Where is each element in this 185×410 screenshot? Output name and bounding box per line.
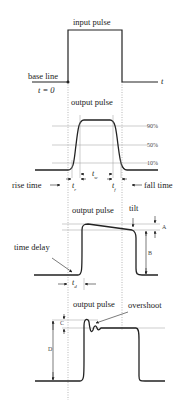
t-axis-label: t [161, 77, 163, 86]
output-pulse-label-2: output pulse [72, 206, 114, 215]
tw-label: tw [92, 170, 98, 180]
t0-label: t = 0 [38, 86, 55, 95]
level-90: 90% [147, 123, 158, 129]
tilt-label: tilt [129, 204, 138, 213]
tr-label: tr [72, 182, 76, 192]
overshoot-label: overshoot [128, 301, 162, 310]
tf-label: tf [112, 182, 116, 192]
level-10: 10% [147, 160, 158, 166]
fall-time-label: fall time [144, 181, 173, 190]
time-delay-label: time delay [14, 243, 50, 252]
output-pulse-overshoot [35, 319, 165, 381]
td-label: td [72, 279, 77, 289]
level-50: 50% [147, 142, 158, 148]
rise-time-label: rise time [12, 181, 42, 190]
C-label: C [60, 320, 64, 326]
B-label: B [148, 250, 152, 256]
A-label: A [162, 224, 166, 230]
t0-dot [67, 81, 70, 84]
base-line-label: base line [28, 72, 58, 81]
input-pulse-label: input pulse [73, 18, 111, 27]
output-pulse-tilt [34, 224, 158, 275]
output-pulse-label-3: output pulse [73, 300, 115, 309]
D-label: D [48, 346, 52, 352]
output-pulse-label-1: output pulse [71, 98, 113, 107]
